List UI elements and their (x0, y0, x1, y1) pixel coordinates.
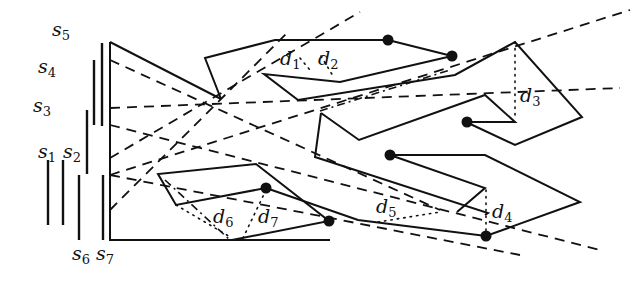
endpoint-dot (447, 51, 458, 62)
dashed-ray (110, 88, 620, 108)
chain-upper-right (264, 40, 582, 145)
label-s4: s4 (38, 55, 56, 80)
endpoint-dot (481, 231, 492, 242)
endpoint-dot (383, 35, 394, 46)
label-s3: s3 (33, 94, 51, 119)
label-s6: s6 (72, 242, 90, 267)
endpoint-dot (385, 150, 396, 161)
vertical-segments (48, 43, 103, 240)
dashed-ray (110, 125, 600, 250)
dashed-lines (110, 10, 630, 255)
dashed-ray (110, 175, 520, 255)
frame-diagonal (110, 42, 221, 99)
label-d6: d6 (213, 205, 233, 230)
label-d4: d4 (492, 200, 512, 225)
diagram-svg: s5 s4 s3 s1 s2 s6 s7 d1 d2 d3 d4 d5 d6 d… (0, 0, 641, 281)
chain-lower-left (158, 164, 329, 240)
distance-d2 (300, 58, 310, 70)
label-s2: s2 (63, 140, 81, 165)
label-s7: s7 (96, 242, 114, 267)
dashdot-ray (320, 70, 450, 111)
diagram-canvas: s5 s4 s3 s1 s2 s6 s7 d1 d2 d3 d4 d5 d6 d… (0, 0, 641, 281)
label-d1: d1 (280, 47, 300, 72)
dashed-ray (110, 10, 630, 175)
label-s1: s1 (38, 140, 56, 165)
dashed-ray (110, 30, 290, 210)
label-d5: d5 (376, 195, 396, 220)
label-d7: d7 (258, 205, 278, 230)
chain-inner-hook (390, 155, 485, 212)
distance-segments (176, 42, 515, 238)
label-d3: d3 (520, 84, 540, 109)
label-s5: s5 (52, 18, 70, 43)
label-d2: d2 (318, 47, 338, 72)
endpoint-dot (261, 183, 272, 194)
endpoint-dot (462, 117, 473, 128)
endpoint-dot (324, 216, 335, 227)
